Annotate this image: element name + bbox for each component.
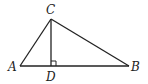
label-b: B — [130, 60, 140, 74]
segment-ac — [20, 19, 51, 66]
triangle-diagram: C A D B — [0, 0, 148, 84]
right-angle-marker-icon — [51, 61, 56, 66]
segment-bc — [51, 19, 129, 66]
label-d: D — [45, 70, 56, 84]
label-c: C — [46, 3, 55, 17]
label-a: A — [7, 60, 17, 74]
